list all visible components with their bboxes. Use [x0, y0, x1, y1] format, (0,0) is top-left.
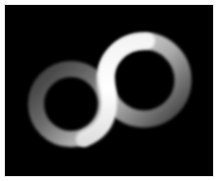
- infinity-shape: [0, 0, 218, 181]
